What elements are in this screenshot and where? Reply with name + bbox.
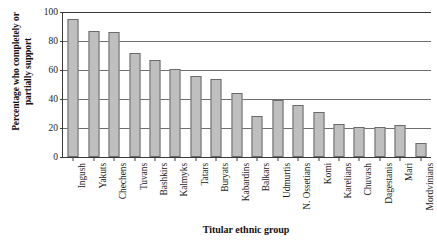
bar bbox=[395, 125, 406, 157]
x-tick-mark bbox=[277, 157, 278, 161]
x-tick-label: Karelians bbox=[343, 163, 353, 199]
x-tick-label: Tatars bbox=[200, 163, 210, 185]
bar bbox=[333, 124, 344, 157]
x-tick-label: Chechens bbox=[118, 163, 128, 199]
bar-group: Bashkirs bbox=[145, 12, 165, 157]
bar bbox=[109, 32, 120, 157]
x-tick-mark bbox=[216, 157, 217, 161]
x-tick-label: Udmurtis bbox=[282, 163, 292, 198]
bar bbox=[374, 127, 385, 157]
x-tick-mark bbox=[93, 157, 94, 161]
bar-group: N. Ossetians bbox=[288, 12, 308, 157]
y-axis-title-line1: Percentage who completely or bbox=[11, 12, 21, 131]
x-tick-mark bbox=[134, 157, 135, 161]
bar-series: IngushYakutsChechensTuvansBashkirsKalmyk… bbox=[63, 12, 431, 157]
bar-group: Tuvans bbox=[124, 12, 144, 157]
x-tick-label: Bashkirs bbox=[159, 163, 169, 195]
x-tick-mark bbox=[338, 157, 339, 161]
x-tick-mark bbox=[154, 157, 155, 161]
bar bbox=[149, 60, 160, 157]
bar bbox=[415, 143, 426, 158]
y-axis-title-line2: partially support bbox=[22, 38, 32, 105]
bar bbox=[68, 19, 79, 157]
bar-group: Chuvash bbox=[349, 12, 369, 157]
bar-group: Mordvinians bbox=[411, 12, 431, 157]
x-tick-label: Kabardins bbox=[241, 163, 251, 201]
bar-group: Tatars bbox=[186, 12, 206, 157]
x-tick-mark bbox=[73, 157, 74, 161]
bar bbox=[293, 105, 304, 157]
bar bbox=[190, 76, 201, 157]
x-tick-mark bbox=[400, 157, 401, 161]
bar-group: Dagestanis bbox=[370, 12, 390, 157]
bar-group: Balkars bbox=[247, 12, 267, 157]
x-tick-label: Buryats bbox=[220, 163, 230, 192]
x-tick-label: Dagestanis bbox=[384, 163, 394, 204]
bar-group: Ingush bbox=[63, 12, 83, 157]
x-tick-label: Komi bbox=[323, 163, 333, 184]
bar-group: Udmurtis bbox=[267, 12, 287, 157]
bar bbox=[129, 53, 140, 157]
x-tick-label: Ingush bbox=[77, 163, 87, 188]
y-axis-title: Percentage who completely or partially s… bbox=[11, 2, 34, 142]
bar-group: Kabardins bbox=[227, 12, 247, 157]
x-tick-mark bbox=[236, 157, 237, 161]
y-axis-title-container: Percentage who completely or partially s… bbox=[0, 0, 42, 170]
x-tick-label: Chuvash bbox=[363, 163, 373, 196]
x-tick-mark bbox=[379, 157, 380, 161]
plot-area: 020406080100 IngushYakutsChechensTuvansB… bbox=[62, 12, 431, 158]
bar bbox=[354, 127, 365, 157]
bar-group: Mari bbox=[390, 12, 410, 157]
x-tick-mark bbox=[175, 157, 176, 161]
x-axis-title: Titular ethnic group bbox=[62, 224, 430, 235]
bar-chart-figure: Percentage who completely or partially s… bbox=[0, 0, 437, 244]
x-tick-mark bbox=[114, 157, 115, 161]
bar-group: Komi bbox=[308, 12, 328, 157]
bar bbox=[272, 100, 283, 157]
x-tick-mark bbox=[195, 157, 196, 161]
bar-group: Yakuts bbox=[83, 12, 103, 157]
x-tick-mark bbox=[257, 157, 258, 161]
x-tick-label: Balkars bbox=[261, 163, 271, 191]
bar bbox=[231, 93, 242, 157]
bar-group: Chechens bbox=[104, 12, 124, 157]
y-tick-mark-0 bbox=[60, 157, 64, 158]
bar bbox=[313, 112, 324, 157]
x-tick-label: Mordvinians bbox=[425, 163, 435, 210]
bar-group: Kalmyks bbox=[165, 12, 185, 157]
bar-group: Buryats bbox=[206, 12, 226, 157]
x-tick-mark bbox=[420, 157, 421, 161]
bar bbox=[211, 79, 222, 157]
x-tick-mark bbox=[318, 157, 319, 161]
x-tick-label: Tuvans bbox=[139, 163, 149, 190]
bar-group: Karelians bbox=[329, 12, 349, 157]
bar bbox=[88, 31, 99, 157]
x-tick-mark bbox=[359, 157, 360, 161]
x-tick-label: N. Ossetians bbox=[302, 163, 312, 210]
x-tick-label: Yakuts bbox=[98, 163, 108, 188]
x-tick-mark bbox=[298, 157, 299, 161]
bar bbox=[170, 69, 181, 157]
x-tick-label: Mari bbox=[404, 163, 414, 181]
bar bbox=[252, 116, 263, 157]
x-tick-label: Kalmyks bbox=[179, 163, 189, 197]
